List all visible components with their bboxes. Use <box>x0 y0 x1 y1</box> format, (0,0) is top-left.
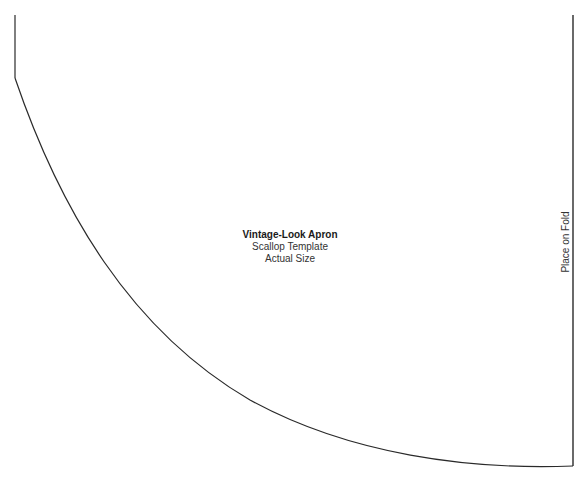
pattern-title-block: Vintage-Look Apron Scallop Template Actu… <box>180 229 400 265</box>
scallop-curve <box>15 78 573 467</box>
scale-note: Actual Size <box>180 253 400 265</box>
fold-label: Place on Fold <box>560 211 571 272</box>
pattern-subtitle: Scallop Template <box>180 241 400 253</box>
pattern-title: Vintage-Look Apron <box>180 229 400 241</box>
